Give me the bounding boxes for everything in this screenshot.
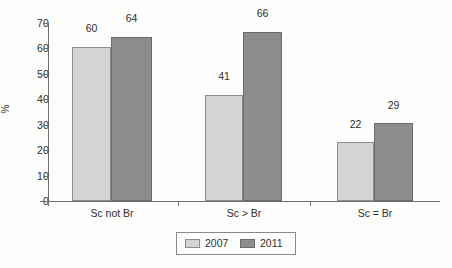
y-tick-mark-20 (43, 150, 49, 151)
y-tick-mark-70 (43, 23, 49, 24)
legend-label-2007: 2007 (205, 238, 228, 249)
y-tick-mark-30 (43, 125, 49, 126)
y-tick-mark-10 (43, 176, 49, 177)
bar-2011-sc-not-br (111, 37, 152, 201)
y-tick-mark-40 (43, 99, 49, 100)
bar-2007-sc-not-br (72, 47, 111, 201)
y-axis-title: % (1, 105, 11, 114)
x-tick-mark-1 (178, 201, 179, 206)
bar-value-2007-sc-gt-br: 41 (205, 71, 243, 82)
x-axis-line (40, 201, 440, 202)
legend-swatch-icon-2007 (185, 239, 200, 248)
legend-item-2007: 2007 (185, 238, 228, 249)
y-tick-10: 10 (0, 176, 49, 177)
y-tick-mark-60 (43, 48, 49, 49)
bar-2011-sc-gt-br (243, 32, 282, 201)
y-tick-60: 60 (0, 48, 49, 49)
legend-label-2011: 2011 (260, 238, 283, 249)
legend-swatch-icon-2011 (240, 239, 255, 248)
x-category-label-sc-not-br: Sc not Br (52, 207, 172, 219)
y-tick-70: 70 (0, 23, 49, 24)
bar-value-2011-sc-gt-br: 66 (243, 8, 282, 19)
bar-2011-sc-eq-br (374, 123, 413, 201)
x-category-label-sc-gt-br: Sc > Br (184, 207, 304, 219)
y-tick-40: 40 (0, 99, 49, 100)
bar-value-2007-sc-eq-br: 22 (337, 119, 374, 130)
x-tick-mark-2 (310, 201, 311, 206)
bar-2007-sc-gt-br (205, 95, 243, 201)
x-category-label-sc-eq-br: Sc = Br (315, 207, 435, 219)
y-tick-30: 30 (0, 125, 49, 126)
legend-item-2011: 2011 (240, 238, 283, 249)
bar-chart: 70 60 50 40 30 20 10 0 % 60 64 Sc not Br… (0, 0, 452, 268)
x-tick-mark-start (48, 201, 49, 206)
chart-legend: 2007 2011 (176, 232, 296, 255)
bar-value-2011-sc-not-br: 64 (111, 13, 152, 24)
y-tick-mark-50 (43, 74, 49, 75)
bar-value-2007-sc-not-br: 60 (72, 23, 111, 34)
bar-2007-sc-eq-br (337, 142, 374, 201)
bar-value-2011-sc-eq-br: 29 (374, 100, 413, 111)
y-tick-50: 50 (0, 74, 49, 75)
y-tick-20: 20 (0, 150, 49, 151)
